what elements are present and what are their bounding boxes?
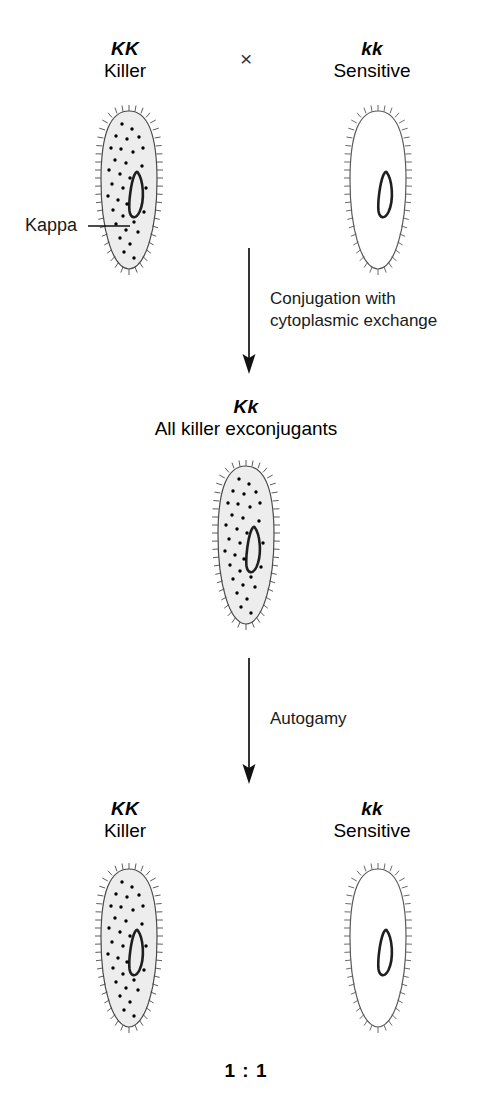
paramecium-cell-f2-sensitive <box>345 866 411 1030</box>
paramecium-genetics-figure: KK Killer × kk Sensitive <box>0 0 492 1119</box>
paramecium-cell-f1-killer <box>213 463 279 627</box>
ratio-label: 1 : 1 <box>196 1060 296 1082</box>
f2-left-label-group: KK Killer <box>45 798 205 842</box>
autogamy-arrow <box>236 658 262 786</box>
cross-symbol: × <box>240 47 252 71</box>
f2-left-phenotype: Killer <box>45 820 205 842</box>
kappa-label: Kappa <box>25 215 77 236</box>
parent2-genotype: kk <box>292 38 452 60</box>
parent1-label-group: KK Killer <box>45 38 205 82</box>
autogamy-step-label: Autogamy <box>270 708 347 730</box>
autogamy-step-line1: Autogamy <box>270 708 347 730</box>
parent2-phenotype: Sensitive <box>292 60 452 82</box>
paramecium-cell-parent2-sensitive <box>345 108 411 272</box>
f2-left-genotype: KK <box>45 798 205 820</box>
paramecium-cell-parent1-killer <box>96 108 162 272</box>
conjugation-step-line1: Conjugation with <box>270 288 437 310</box>
parent2-label-group: kk Sensitive <box>292 38 452 82</box>
conjugation-arrow <box>236 248 262 376</box>
f1-phenotype: All killer exconjugants <box>96 418 396 440</box>
parent1-phenotype: Killer <box>45 60 205 82</box>
parent1-genotype: KK <box>45 38 205 60</box>
f2-right-genotype: kk <box>292 798 452 820</box>
f1-genotype: Kk <box>96 396 396 418</box>
f2-right-label-group: kk Sensitive <box>292 798 452 842</box>
f1-label-group: Kk All killer exconjugants <box>96 396 396 440</box>
kappa-leader-line <box>88 219 134 233</box>
f2-right-phenotype: Sensitive <box>292 820 452 842</box>
conjugation-step-label: Conjugation with cytoplasmic exchange <box>270 288 437 332</box>
paramecium-cell-f2-killer <box>96 866 162 1030</box>
conjugation-step-line2: cytoplasmic exchange <box>270 310 437 332</box>
